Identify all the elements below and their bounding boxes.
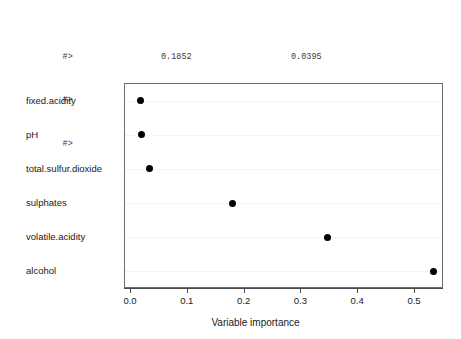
x-axis-tick-label: 0.0 [123, 295, 136, 306]
y-axis-tick-label: pH [26, 128, 38, 139]
y-axis-tick-label: alcohol [26, 265, 56, 276]
gridline [125, 135, 442, 136]
y-axis-tick-label: fixed.acidity [26, 94, 76, 105]
gridline [125, 237, 442, 238]
y-axis-labels: fixed.aciditypHtotal.sulfur.dioxidesulph… [0, 0, 118, 339]
x-axis-tick-label: 0.3 [294, 295, 307, 306]
x-axis-tick-label: 0.4 [351, 295, 364, 306]
data-point [324, 234, 331, 241]
gridline [125, 169, 442, 170]
gridline [125, 101, 442, 102]
x-axis-tick [244, 288, 245, 293]
y-axis-tick-label: total.sulfur.dioxide [26, 162, 102, 173]
data-point [138, 131, 145, 138]
screenshot-root: #>0.18520.0395 #>pHfixed.acidity #>0.023… [0, 0, 461, 339]
data-point [229, 200, 236, 207]
data-point [430, 268, 437, 275]
x-axis-line [124, 288, 443, 289]
gridline [125, 271, 442, 272]
x-axis-tick-label: 0.5 [407, 295, 420, 306]
plot-frame [124, 83, 443, 288]
x-axis-tick [300, 288, 301, 293]
x-axis-title-text: Variable importance [211, 317, 299, 328]
y-axis-tick-label: volatile.acidity [26, 231, 85, 242]
x-axis-tick-label: 0.2 [237, 295, 250, 306]
data-point [137, 97, 144, 104]
x-axis-tick [130, 288, 131, 293]
gridline [125, 203, 442, 204]
data-point [146, 165, 153, 172]
x-axis-title: Variable importance [0, 317, 461, 328]
x-axis-tick [357, 288, 358, 293]
x-axis-tick [414, 288, 415, 293]
x-axis-tick [187, 288, 188, 293]
variable-importance-plot: fixed.aciditypHtotal.sulfur.dioxidesulph… [0, 0, 461, 339]
y-axis-tick-label: sulphates [26, 197, 67, 208]
x-axis-tick-label: 0.1 [180, 295, 193, 306]
